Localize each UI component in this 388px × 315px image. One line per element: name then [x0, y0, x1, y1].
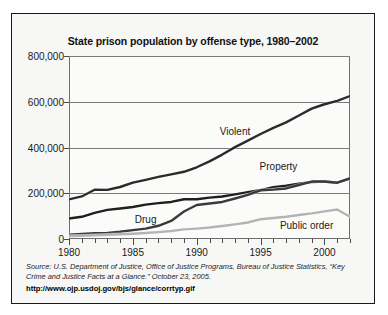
source-body-text: U.S. Department of Justice, Office of Ju…: [26, 262, 345, 281]
source-caption: Source: U.S. Department of Justice, Offi…: [26, 262, 364, 282]
x-tick-mark: [261, 239, 262, 245]
x-tick-mark: [95, 239, 96, 243]
x-tick-label: 1985: [122, 247, 144, 258]
source-block: Source: U.S. Department of Justice, Offi…: [26, 262, 364, 295]
x-tick-mark: [273, 239, 274, 243]
x-tick-mark: [248, 239, 249, 243]
x-tick-mark: [146, 239, 147, 243]
x-tick-mark: [120, 239, 121, 243]
series-label-drug: Drug: [135, 213, 157, 224]
chart-figure: State prison population by offense type,…: [11, 13, 375, 304]
x-tick-mark: [107, 239, 108, 243]
y-tick-label: 400,000: [28, 142, 64, 153]
x-tick-label: 1990: [186, 247, 208, 258]
y-tick-label: 800,000: [28, 51, 64, 62]
chart-title: State prison population by offense type,…: [12, 35, 374, 47]
x-tick-mark: [184, 239, 185, 243]
x-tick-mark: [299, 239, 300, 243]
y-tick-label: 600,000: [28, 96, 64, 107]
x-tick-mark: [171, 239, 172, 243]
x-tick-mark: [158, 239, 159, 243]
x-tick-mark: [222, 239, 223, 243]
series-label-violent: Violent: [220, 126, 250, 137]
y-tick-label: 200,000: [28, 188, 64, 199]
series-label-property: Property: [260, 161, 298, 172]
x-tick-label: 1995: [249, 247, 271, 258]
x-tick-mark: [337, 239, 338, 243]
x-tick-mark: [312, 239, 313, 243]
plot-wrapper: 0200,000400,000600,000800,00019801985199…: [69, 56, 350, 239]
x-tick-mark: [286, 239, 287, 243]
x-tick-label: 2000: [313, 247, 335, 258]
x-tick-mark: [235, 239, 236, 243]
x-tick-mark: [324, 239, 325, 245]
series-lines: [69, 56, 350, 239]
x-tick-mark: [350, 239, 351, 243]
x-tick-mark: [133, 239, 134, 245]
series-label-public-order: Public order: [280, 219, 333, 230]
y-tick-label: 0: [58, 234, 64, 245]
x-tick-mark: [197, 239, 198, 245]
source-url-link[interactable]: http://www.ojp.usdoj.gov/bjs/glance/corr…: [26, 284, 364, 294]
x-tick-mark: [82, 239, 83, 243]
x-tick-mark: [69, 239, 70, 245]
x-tick-mark: [210, 239, 211, 243]
source-lead-label: Source:: [26, 262, 51, 271]
x-tick-label: 1980: [58, 247, 80, 258]
